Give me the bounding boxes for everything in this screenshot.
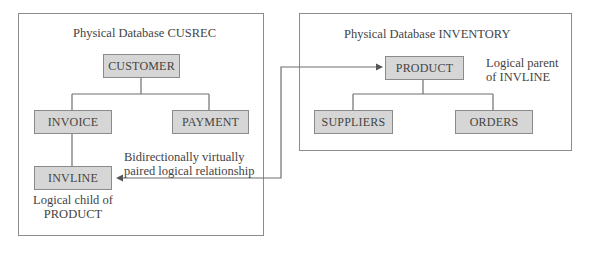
relationship-label-line1: Bidirectionally virtually — [124, 150, 255, 164]
arrowhead-left-icon — [116, 175, 123, 182]
relationship-label-line2: paired logical relationship — [124, 164, 255, 178]
segment-customer: CUSTOMER — [103, 54, 180, 78]
invline-annotation-line1: Logical child of — [30, 193, 116, 207]
invline-annotation-line2: PRODUCT — [30, 207, 116, 221]
arrowhead-right-icon — [376, 64, 383, 71]
product-annotation-line1: Logical parent — [486, 56, 559, 70]
segment-invoice: INVOICE — [34, 110, 112, 134]
segment-orders: ORDERS — [455, 110, 533, 134]
segment-invline: INVLINE — [34, 166, 112, 190]
product-annotation-line2: of INVLINE — [486, 70, 559, 84]
database-inventory-title: Physical Database INVENTORY — [344, 27, 510, 42]
relationship-label: Bidirectionally virtually paired logical… — [124, 150, 255, 178]
segment-suppliers: SUPPLIERS — [314, 110, 393, 134]
invline-annotation: Logical child of PRODUCT — [30, 193, 116, 221]
segment-product: PRODUCT — [385, 56, 464, 80]
product-annotation: Logical parent of INVLINE — [486, 56, 559, 84]
segment-payment: PAYMENT — [172, 110, 249, 134]
database-cusrec-title: Physical Database CUSREC — [73, 26, 216, 41]
